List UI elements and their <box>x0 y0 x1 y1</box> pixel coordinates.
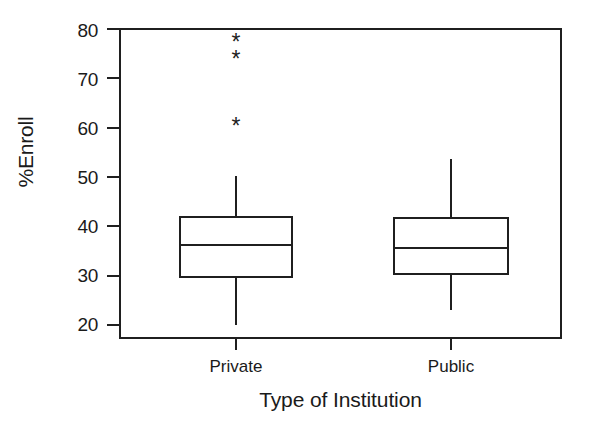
outlier-marker-private-0: * <box>232 113 241 139</box>
boxplot-figure: %Enroll 80 70 60 50 40 30 20 Private Pub… <box>0 0 589 429</box>
plot-area: *** <box>0 0 589 429</box>
outlier-marker-private-2: * <box>232 29 241 55</box>
box-public <box>394 218 508 274</box>
plot-frame <box>120 29 561 338</box>
box-private <box>180 217 292 277</box>
